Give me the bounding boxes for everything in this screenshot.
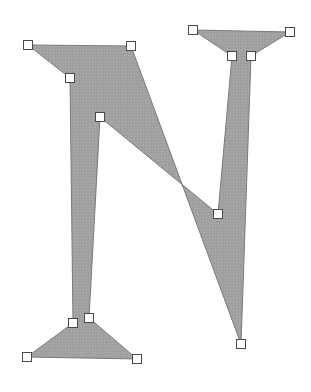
vertex-handle-10[interactable] — [85, 314, 94, 323]
vertex-handle-6[interactable] — [189, 26, 198, 35]
vertex-handle-13[interactable] — [69, 319, 78, 328]
vertex-handle-2[interactable] — [127, 42, 136, 51]
vertex-handles — [23, 26, 295, 364]
vertex-handle-8[interactable] — [214, 210, 223, 219]
vertex-handle-1[interactable] — [24, 41, 33, 50]
vertex-handle-5[interactable] — [286, 28, 295, 37]
vertex-handle-11[interactable] — [133, 355, 142, 364]
drawing-canvas[interactable] — [0, 0, 311, 392]
vertex-handle-7[interactable] — [228, 52, 237, 61]
vertex-handle-4[interactable] — [247, 52, 256, 61]
vertex-handle-14[interactable] — [66, 74, 75, 83]
vertex-handle-3[interactable] — [237, 340, 246, 349]
vertex-handle-9[interactable] — [96, 113, 105, 122]
vertex-handle-12[interactable] — [23, 353, 32, 362]
